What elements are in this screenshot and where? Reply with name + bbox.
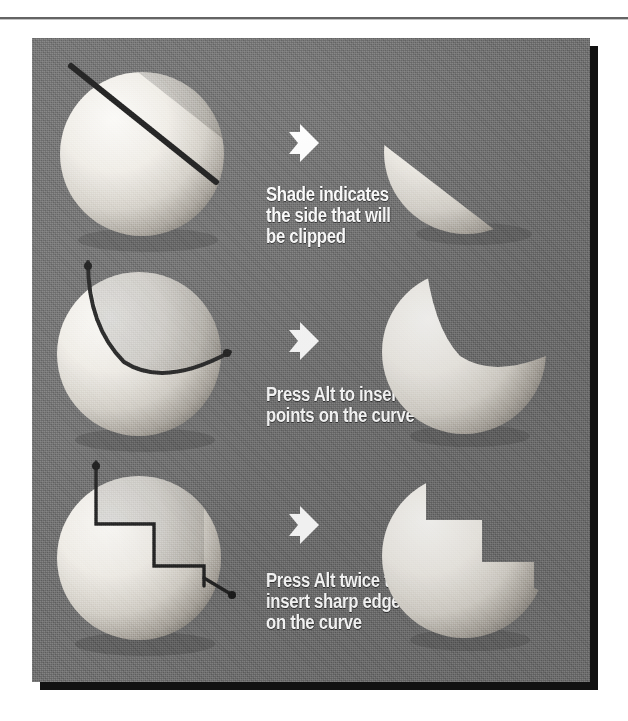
sphere-with-straight-clip-line [44, 54, 244, 254]
right-arrow-icon [285, 502, 339, 548]
figure-panel: Shade indicates the side that will be cl… [32, 38, 590, 682]
sphere-with-zigzag-clip-path [44, 458, 244, 658]
clipped-sphere-body [382, 474, 546, 638]
curve-endpoint-handle[interactable] [223, 349, 231, 357]
figure-row-straight-line: Shade indicates the side that will be cl… [32, 54, 590, 254]
right-arrow-icon [285, 120, 339, 166]
sphere-clipped-by-straight-line [378, 54, 578, 254]
curve-endpoint-handle[interactable] [84, 262, 92, 270]
zigzag-endpoint-handle[interactable] [92, 462, 100, 470]
sphere-with-curved-clip-path [44, 256, 244, 456]
clipped-sphere-body [382, 270, 546, 434]
clipped-sphere-body [384, 70, 548, 234]
sphere-clipped-by-zigzag [378, 458, 578, 658]
figure-row-curve: Press Alt to insert points on the curve [32, 256, 590, 456]
figure-row-sharp-edges: Press Alt twice to insert sharp edges on… [32, 458, 590, 658]
right-arrow-icon [285, 318, 339, 364]
page-rule [0, 17, 628, 19]
zigzag-endpoint-handle[interactable] [228, 591, 236, 599]
sphere-clipped-by-curve [378, 256, 578, 456]
